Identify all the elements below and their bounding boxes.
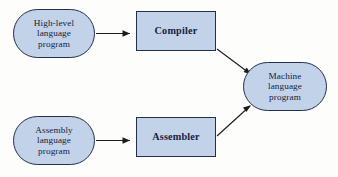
- node-label: High-level language program: [31, 18, 77, 49]
- edge-assembly-to-assembler: [96, 137, 130, 144]
- edge-highlevel-to-compiler: [96, 30, 130, 37]
- node-machine-language-program[interactable]: Machine language program: [243, 62, 327, 111]
- node-assembler[interactable]: Assembler: [136, 117, 216, 157]
- edge-compiler-to-machine: [217, 49, 252, 75]
- node-label: Assembly language program: [32, 125, 76, 156]
- diagram-canvas: High-level language program Compiler Mac…: [0, 0, 338, 177]
- node-label: Machine language program: [265, 71, 305, 102]
- edge-assembler-to-machine: [217, 105, 251, 136]
- node-compiler[interactable]: Compiler: [136, 11, 216, 51]
- node-assembly-language-program[interactable]: Assembly language program: [13, 116, 95, 165]
- node-label: Assembler: [149, 131, 203, 142]
- node-high-level-language-program[interactable]: High-level language program: [13, 9, 95, 58]
- node-label: Compiler: [152, 25, 201, 36]
